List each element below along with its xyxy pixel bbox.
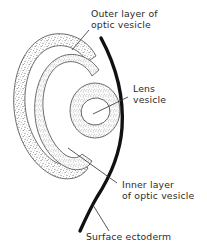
label-outer-layer-line1: Outer layer of [91,8,158,19]
label-lens-vesicle-line1: Lens [133,83,155,94]
optic-vesicle-diagram: Outer layer of optic vesicle Lens vesicl… [0,0,207,248]
label-outer-layer-line2: optic vesicle [91,19,151,30]
label-surface-ectoderm: Surface ectoderm [86,231,171,242]
label-lens-vesicle-line2: vesicle [133,94,166,105]
label-surface-ectoderm-line1: Surface ectoderm [86,231,171,242]
label-inner-layer-line2: of optic vesicle [122,190,194,201]
label-outer-layer-of-optic-vesicle: Outer layer of optic vesicle [91,8,158,30]
label-inner-layer-line1: Inner layer [122,179,174,190]
figure-root: Outer layer of optic vesicle Lens vesicl… [0,0,207,248]
